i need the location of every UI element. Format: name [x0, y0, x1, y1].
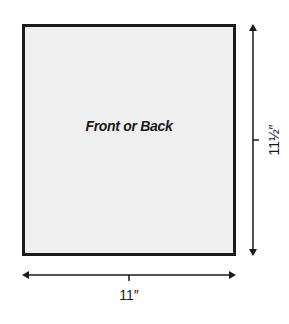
dimension-arrows — [0, 0, 289, 324]
arrowhead-down-icon — [249, 249, 257, 256]
height-dimension-label: 11½″ — [266, 110, 282, 170]
arrowhead-left-icon — [22, 271, 29, 279]
arrowhead-right-icon — [229, 271, 236, 279]
arrowhead-up-icon — [249, 24, 257, 31]
width-dimension-label: 11″ — [99, 287, 159, 303]
